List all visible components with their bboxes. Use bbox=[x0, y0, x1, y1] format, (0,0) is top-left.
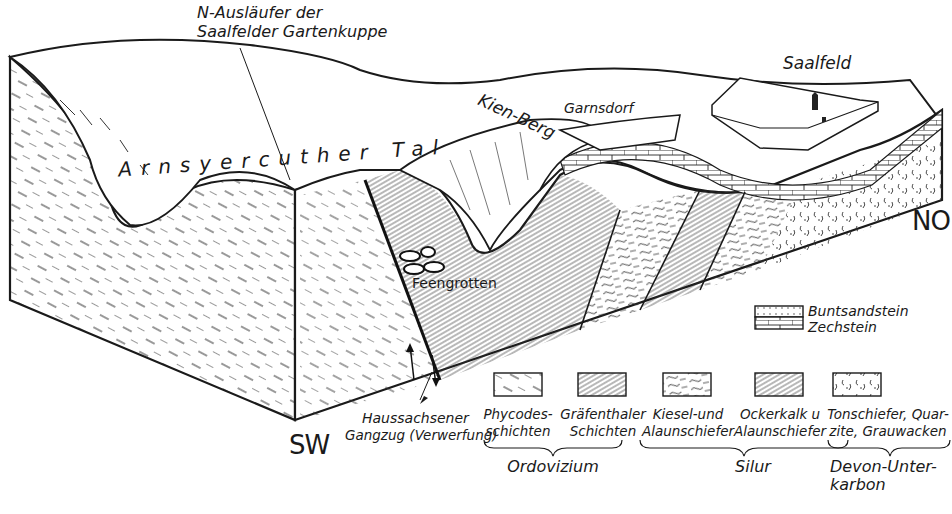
legend-item-kiesel-alaunschiefer: Kiesel-und Alaunschiefer bbox=[638, 406, 738, 440]
group-devon-unterkarbon: Devon-Unter- karbon bbox=[830, 458, 952, 494]
ridge-label-line1: N-Ausläufer der bbox=[197, 5, 322, 22]
town-label: Saalfeld bbox=[783, 55, 851, 73]
ridge-label-line2: Saalfelder Gartenkuppe bbox=[197, 24, 387, 41]
village-label: Garnsdorf bbox=[564, 101, 634, 116]
legend-item-ockerkalk-alaunschiefer: Ockerkalk u Alaunschiefer bbox=[730, 406, 830, 440]
legend-item-phycodes: Phycodes- schichten bbox=[470, 406, 566, 440]
fault-label-line1: Haussachsener bbox=[362, 411, 469, 426]
legend-item-tonschiefer: Tonschiefer, Quar- zite, Grauwacken bbox=[826, 406, 950, 440]
group-ordovizium: Ordovizium bbox=[490, 458, 616, 476]
direction-sw: SW bbox=[289, 430, 329, 460]
legend-braces bbox=[484, 440, 950, 456]
caves-label: Feengrotten bbox=[412, 276, 497, 291]
legend-item-graefenthaler: Gräfenthaler Schichten bbox=[555, 406, 651, 440]
legend-buntsandstein: Buntsandstein bbox=[808, 304, 909, 319]
geological-block-diagram: N-Ausläufer der Saalfelder Gartenkuppe A… bbox=[0, 0, 952, 514]
group-silur: Silur bbox=[690, 458, 816, 476]
direction-no: NO bbox=[912, 206, 950, 236]
legend-zechstein: Zechstein bbox=[808, 320, 877, 335]
